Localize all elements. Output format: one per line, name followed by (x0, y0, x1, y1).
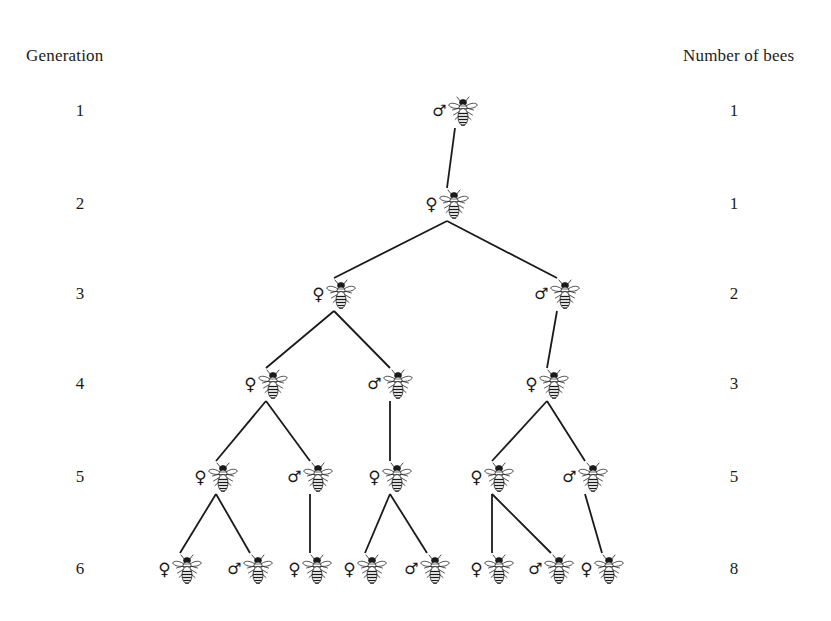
edge-g3b2-to-g4b3 (547, 311, 557, 368)
edge-g2b1-to-g3b2 (447, 221, 557, 278)
male-symbol-icon: ♂ (528, 561, 542, 577)
bee-female-g4b3: ♀ (520, 368, 574, 402)
male-symbol-icon: ♂ (287, 469, 301, 485)
bee-male-g3b2: ♂ (530, 278, 584, 312)
bee-female-g3b1: ♀ (307, 278, 361, 312)
female-symbol-icon: ♀ (470, 561, 482, 578)
bee-icon (550, 279, 580, 311)
male-symbol-icon: ♂ (404, 561, 418, 577)
bee-count-label-gen-4: 3 (714, 374, 754, 394)
male-symbol-icon: ♂ (562, 469, 576, 485)
bee-male-g6b7: ♂ (524, 553, 578, 587)
generation-label-4: 4 (60, 374, 100, 394)
female-symbol-icon: ♀ (525, 376, 537, 393)
bee-icon (484, 462, 514, 494)
bee-count-label-gen-1: 1 (714, 101, 754, 121)
bee-female-g5b3: ♀ (363, 461, 417, 495)
edge-g5b3-to-g6b4 (365, 494, 390, 553)
bee-icon (539, 369, 569, 401)
female-symbol-icon: ♀ (158, 561, 170, 578)
bee-male-g1b1: ♂ (428, 95, 482, 129)
bee-icon (594, 554, 624, 586)
female-symbol-icon: ♀ (288, 561, 300, 578)
bee-icon (303, 462, 333, 494)
bee-icon (208, 462, 238, 494)
bee-count-label-gen-3: 2 (714, 284, 754, 304)
edge-g5b4-to-g6b7 (492, 494, 551, 553)
bee-count-label-gen-2: 1 (714, 194, 754, 214)
edge-g5b1-to-g6b2 (216, 494, 250, 553)
male-symbol-icon: ♂ (367, 376, 381, 392)
female-symbol-icon: ♀ (312, 286, 324, 303)
edge-g1b1-to-g2b1 (447, 128, 455, 188)
generation-label-3: 3 (60, 284, 100, 304)
male-symbol-icon: ♂ (432, 103, 446, 119)
bee-female-g6b3: ♀ (283, 553, 337, 587)
female-symbol-icon: ♀ (244, 376, 256, 393)
bee-count-label-gen-5: 5 (714, 467, 754, 487)
bee-icon (326, 279, 356, 311)
bee-icon (439, 189, 469, 221)
bee-count-label-gen-6: 8 (714, 559, 754, 579)
edge-g3b1-to-g4b2 (334, 311, 390, 368)
male-symbol-icon: ♂ (227, 561, 241, 577)
edge-g4b1-to-g5b1 (216, 401, 266, 461)
generation-column-heading: Generation (26, 46, 104, 66)
bee-female-g6b4: ♀ (338, 553, 392, 587)
male-symbol-icon: ♂ (534, 286, 548, 302)
number-of-bees-column-heading: Number of bees (683, 46, 794, 66)
bee-icon (172, 554, 202, 586)
bee-icon (302, 554, 332, 586)
bee-female-g5b4: ♀ (465, 461, 519, 495)
bee-male-g6b2: ♂ (223, 553, 277, 587)
bee-icon (258, 369, 288, 401)
bee-male-g4b2: ♂ (363, 368, 417, 402)
female-symbol-icon: ♀ (343, 561, 355, 578)
bee-female-g6b1: ♀ (153, 553, 207, 587)
bee-female-g5b1: ♀ (189, 461, 243, 495)
edge-g4b3-to-g5b4 (492, 401, 547, 461)
generation-label-2: 2 (60, 194, 100, 214)
bee-male-g5b2: ♂ (283, 461, 337, 495)
edge-g5b5-to-g6b8 (585, 494, 602, 553)
bee-icon (383, 369, 413, 401)
bee-icon (448, 96, 478, 128)
bee-female-g2b1: ♀ (420, 188, 474, 222)
edge-g4b3-to-g5b5 (547, 401, 585, 461)
edge-g5b1-to-g6b1 (180, 494, 216, 553)
bee-icon (484, 554, 514, 586)
edge-layer (0, 0, 831, 621)
generation-label-6: 6 (60, 559, 100, 579)
bee-icon (357, 554, 387, 586)
female-symbol-icon: ♀ (368, 469, 380, 486)
female-symbol-icon: ♀ (470, 469, 482, 486)
female-symbol-icon: ♀ (580, 561, 592, 578)
diagram-canvas: Generation Number of bees 123456 112358 … (0, 0, 831, 621)
edge-g5b3-to-g6b5 (390, 494, 427, 553)
female-symbol-icon: ♀ (194, 469, 206, 486)
bee-female-g6b8: ♀ (575, 553, 629, 587)
bee-icon (578, 462, 608, 494)
female-symbol-icon: ♀ (425, 196, 437, 213)
bee-icon (420, 554, 450, 586)
edge-g4b1-to-g5b2 (266, 401, 310, 461)
edge-g2b1-to-g3b1 (334, 221, 447, 278)
edge-g3b1-to-g4b1 (266, 311, 334, 368)
bee-male-g6b5: ♂ (400, 553, 454, 587)
generation-label-1: 1 (60, 101, 100, 121)
bee-icon (243, 554, 273, 586)
bee-female-g4b1: ♀ (239, 368, 293, 402)
bee-icon (382, 462, 412, 494)
bee-male-g5b5: ♂ (558, 461, 612, 495)
generation-label-5: 5 (60, 467, 100, 487)
bee-icon (544, 554, 574, 586)
bee-female-g6b6: ♀ (465, 553, 519, 587)
